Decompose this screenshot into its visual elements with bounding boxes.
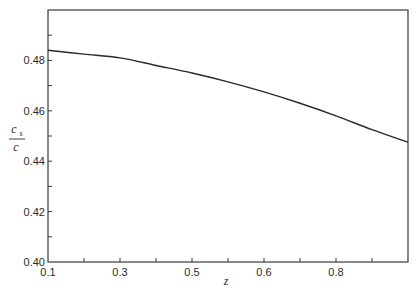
x-tick-labels: 0.10.30.50.60.8 [40, 266, 343, 278]
x-axis-label: z [223, 274, 229, 288]
y-tick-label: 0.48 [24, 54, 45, 66]
y-axis-label-subscript: s [19, 129, 22, 138]
series-group [48, 50, 408, 142]
y-tick-label: 0.44 [24, 155, 45, 167]
y-tick-label: 0.46 [24, 105, 45, 117]
x-tick-label: 0.8 [328, 266, 343, 278]
plot-frame [48, 10, 408, 262]
x-tick-label: 0.3 [112, 266, 127, 278]
y-axis-label-denominator: c [13, 140, 19, 154]
x-tick-label: 0.6 [256, 266, 271, 278]
y-tick-label: 0.42 [24, 206, 45, 218]
series-line [48, 50, 408, 142]
y-axis-label: c s c [9, 122, 25, 154]
chart: 0.10.30.50.60.8 0.400.420.440.460.48 z c… [0, 0, 419, 295]
y-axis-label-numerator: c [11, 122, 17, 136]
x-ticks [84, 258, 372, 262]
x-tick-label: 0.5 [184, 266, 199, 278]
y-tick-labels: 0.400.420.440.460.48 [24, 54, 45, 268]
y-tick-label: 0.40 [24, 256, 45, 268]
